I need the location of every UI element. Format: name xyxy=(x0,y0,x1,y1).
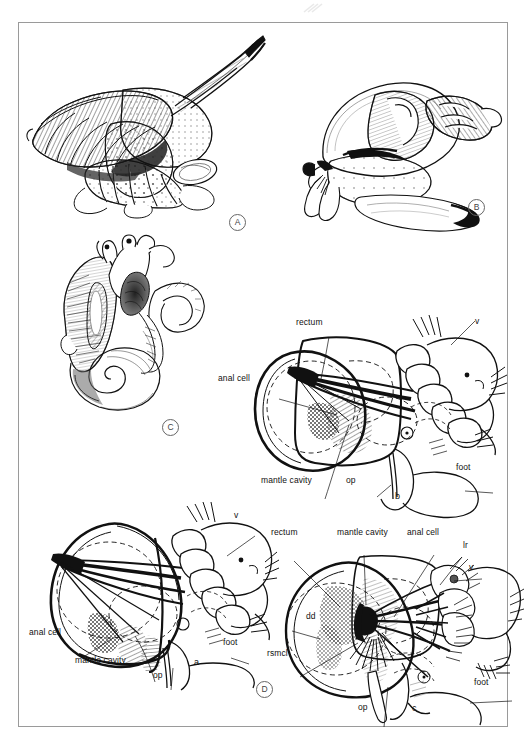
label-a-op: op xyxy=(153,671,163,680)
label-c-rsmcl: rsmcl xyxy=(267,649,288,658)
label-b-rectum: rectum xyxy=(296,318,323,327)
label-c-lr: lr xyxy=(463,541,468,550)
scan-artifact xyxy=(300,2,336,14)
panel-marker-B: B xyxy=(468,199,485,216)
label-c-rectum: rectum xyxy=(271,528,298,537)
label-c-mantle-cavity: mantle cavity xyxy=(337,528,388,537)
sublabel-a: a xyxy=(194,657,199,667)
panel-marker-B-text: B xyxy=(474,203,480,212)
panel-marker-A-text: A xyxy=(235,218,241,227)
figure-plate: A xyxy=(18,22,508,727)
diagram-a xyxy=(31,508,276,693)
label-c-op: op xyxy=(358,703,368,712)
label-a-foot: foot xyxy=(223,638,238,647)
label-b-mantle-cavity: mantle cavity xyxy=(261,476,312,485)
label-b-anal-cell: anal cell xyxy=(218,374,250,383)
panel-marker-C: C xyxy=(162,419,179,436)
label-c-anal-cell: anal cell xyxy=(407,528,439,537)
label-b-foot: foot xyxy=(456,463,471,472)
label-c-foot: foot xyxy=(474,678,489,687)
label-a-mantle-cavity: mantle cavity xyxy=(75,656,126,665)
label-a-anal-cell: anal cell xyxy=(29,628,61,637)
label-c-dd: dd xyxy=(306,612,316,621)
label-a-velum: v xyxy=(234,511,238,520)
panel-marker-A: A xyxy=(229,214,246,231)
sublabel-b: b xyxy=(395,491,400,501)
panel-a-illustration xyxy=(15,28,265,218)
panel-marker-D-text: D xyxy=(261,685,267,694)
panel-marker-C-text: C xyxy=(167,423,173,432)
panel-b-illustration xyxy=(301,65,516,220)
label-c-velum: v xyxy=(469,563,473,572)
diagram-b xyxy=(199,303,509,528)
sublabel-c: c xyxy=(412,703,417,713)
label-b-velum: v xyxy=(475,317,479,326)
diagram-c xyxy=(264,535,524,735)
panel-marker-D: D xyxy=(256,681,273,698)
label-b-op: op xyxy=(346,476,356,485)
